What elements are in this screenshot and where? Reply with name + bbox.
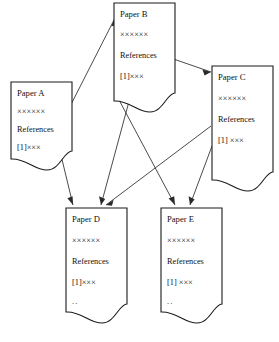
paper-shape-c (212, 66, 273, 191)
paper-e-title: Paper E (167, 214, 194, 224)
arrow-head-icon (106, 200, 114, 206)
edge-b-to-d (99, 94, 131, 205)
paper-c-references-label: References (218, 115, 255, 124)
paper-c-title: Paper C (218, 72, 246, 82)
paper-d-extra-line: .. (72, 297, 79, 306)
paper-d-body-line: ×××××× (72, 236, 100, 245)
paper-a-body-line: ×××××× (17, 107, 45, 116)
diagram-svg: Paper A ×××××× References [1]××× Paper B… (0, 0, 279, 342)
paper-b-references-label: References (120, 51, 157, 60)
arrow-head-icon (189, 196, 195, 205)
paper-node-a[interactable]: Paper A ×××××× References [1]××× (11, 82, 72, 170)
paper-d-references-label: References (72, 257, 109, 266)
paper-node-d[interactable]: Paper D ×××××× References [1]××× .. (66, 208, 127, 323)
arrow-head-icon (169, 196, 175, 205)
arrow-head-icon (67, 196, 73, 205)
paper-node-b[interactable]: Paper B ×××××× References [1]××× (114, 3, 175, 112)
paper-b-title: Paper B (120, 9, 148, 19)
paper-c-citation-line: [1] ××× (218, 136, 244, 145)
paper-e-extra-line: .. (167, 297, 174, 306)
paper-c-body-line: ×××××× (218, 94, 246, 103)
edge-b-to-e (118, 98, 175, 205)
paper-a-citation-line: [1]××× (17, 143, 41, 152)
arrow-head-icon (99, 196, 105, 205)
paper-node-c[interactable]: Paper C ×××××× References [1] ××× (212, 66, 273, 191)
paper-e-body-line: ×××××× (167, 236, 195, 245)
paper-b-citation-line: [1]××× (120, 72, 144, 81)
paper-e-references-label: References (167, 257, 204, 266)
paper-d-citation-line: [1]××× (72, 278, 96, 287)
paper-b-body-line: ×××××× (120, 30, 148, 39)
edge-c-to-d (106, 126, 211, 206)
paper-node-e[interactable]: Paper E ×××××× References [1] ××× .. (161, 208, 222, 323)
paper-a-references-label: References (17, 125, 54, 134)
paper-d-title: Paper D (72, 214, 100, 224)
paper-e-citation-line: [1] ××× (167, 278, 193, 287)
paper-a-title: Paper A (17, 88, 45, 98)
citation-diagram-canvas: Paper A ×××××× References [1]××× Paper B… (0, 0, 279, 342)
edge-c-to-e (189, 146, 212, 205)
